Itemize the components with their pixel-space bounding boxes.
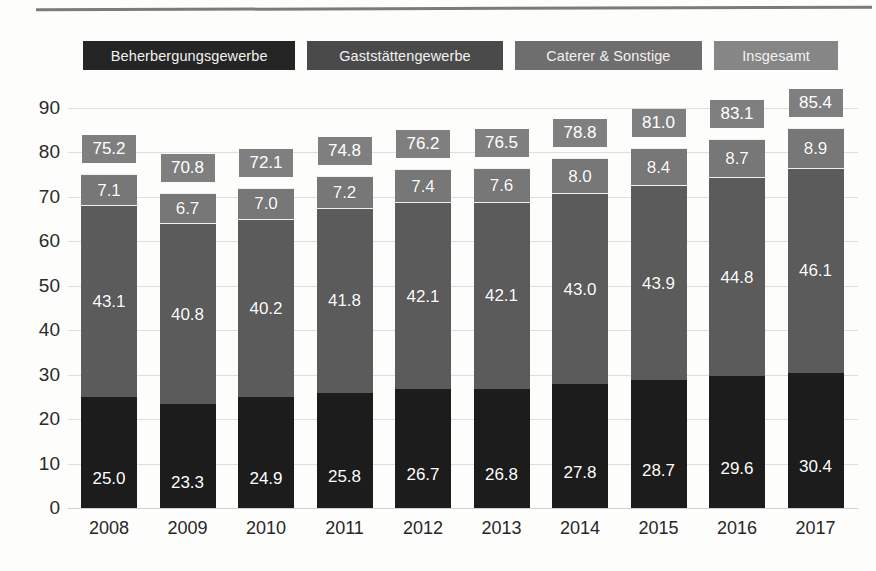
x-axis-tick-label: 2015 xyxy=(631,518,687,539)
bar-segment[interactable]: 29.6 xyxy=(709,376,765,508)
bar-segment[interactable]: 6.7 xyxy=(160,193,216,223)
bar-total-badge: 72.1 xyxy=(239,149,293,177)
bar-segment-value: 7.6 xyxy=(490,177,514,194)
bar-total-badge: 75.2 xyxy=(82,135,136,163)
bar-segment[interactable]: 42.1 xyxy=(395,202,451,389)
bar-segment-value: 27.8 xyxy=(563,464,596,481)
x-axis-tick-label: 2016 xyxy=(709,518,765,539)
bar-segment-value: 25.8 xyxy=(328,468,361,485)
bar-segment-value: 8.0 xyxy=(568,168,592,185)
bar-segment-value: 26.7 xyxy=(406,466,439,483)
x-axis-tick-label: 2008 xyxy=(81,518,137,539)
bar-segment[interactable]: 25.8 xyxy=(317,393,373,508)
bar-total-value: 81.0 xyxy=(642,113,675,133)
bar-total-badge: 85.4 xyxy=(789,89,843,117)
y-axis-tick-label: 60 xyxy=(16,230,60,252)
bar-group[interactable]: 24.940.27.072.1 xyxy=(238,108,294,508)
bar-segment-value: 8.4 xyxy=(647,159,671,176)
x-axis-tick-label: 2013 xyxy=(474,518,530,539)
bar-segment-value: 28.7 xyxy=(642,462,675,479)
bar-segment[interactable]: 26.7 xyxy=(395,389,451,508)
bar-segment[interactable]: 24.9 xyxy=(238,397,294,508)
bar-segment-value: 24.9 xyxy=(249,470,282,487)
bar-segment-value: 29.6 xyxy=(720,460,753,477)
bar-segment[interactable]: 7.1 xyxy=(81,174,137,206)
bar-group[interactable]: 27.843.08.078.8 xyxy=(552,108,608,508)
bar-segment[interactable]: 27.8 xyxy=(552,384,608,508)
bar-segment-value: 40.2 xyxy=(249,300,282,317)
x-axis-tick-label: 2010 xyxy=(238,518,294,539)
x-axis-tick-label: 2014 xyxy=(552,518,608,539)
bar-segment-value: 8.9 xyxy=(804,140,828,157)
bar-segment-value: 46.1 xyxy=(799,262,832,279)
bar-total-value: 76.2 xyxy=(406,134,439,154)
bar-total-value: 72.1 xyxy=(249,153,282,173)
bar-segment[interactable]: 7.2 xyxy=(317,176,373,208)
bar-segment[interactable]: 44.8 xyxy=(709,177,765,376)
bar-segment-value: 41.8 xyxy=(328,292,361,309)
bar-segment[interactable]: 28.7 xyxy=(631,380,687,508)
bar-group[interactable]: 30.446.18.985.4 xyxy=(788,108,844,508)
bar-segment-value: 7.2 xyxy=(333,184,357,201)
bar-total-badge: 83.1 xyxy=(710,100,764,128)
x-axis: 2008200920102011201220132014201520162017 xyxy=(68,518,858,548)
bar-segment[interactable]: 8.7 xyxy=(709,139,765,178)
bar-segment-value: 44.8 xyxy=(720,269,753,286)
bar-total-value: 74.8 xyxy=(328,141,361,161)
bar-segment-value: 42.1 xyxy=(485,287,518,304)
chart-page: BeherbergungsgewerbeGaststättengewerbeCa… xyxy=(0,0,876,571)
bar-segment-value: 7.4 xyxy=(411,178,435,195)
bar-segment[interactable]: 43.1 xyxy=(81,205,137,397)
bar-segment[interactable]: 30.4 xyxy=(788,373,844,508)
y-axis-tick-label: 90 xyxy=(16,97,60,119)
bar-segment[interactable]: 8.0 xyxy=(552,158,608,194)
bar-segment[interactable]: 7.6 xyxy=(474,168,530,202)
bar-series-container: 25.043.17.175.223.340.86.770.824.940.27.… xyxy=(68,108,858,508)
bar-segment[interactable]: 23.3 xyxy=(160,404,216,508)
y-axis: 0102030405060708090 xyxy=(8,108,60,508)
bar-segment-value: 23.3 xyxy=(171,474,204,491)
bar-segment[interactable]: 43.0 xyxy=(552,193,608,384)
bar-segment[interactable]: 7.4 xyxy=(395,169,451,202)
bar-segment-value: 6.7 xyxy=(176,200,200,217)
bar-total-value: 75.2 xyxy=(92,139,125,159)
bar-segment[interactable]: 7.0 xyxy=(238,188,294,219)
bar-segment-value: 42.1 xyxy=(406,288,439,305)
bar-segment-value: 43.1 xyxy=(92,293,125,310)
bar-group[interactable]: 25.043.17.175.2 xyxy=(81,108,137,508)
bar-segment[interactable]: 25.0 xyxy=(81,397,137,508)
y-axis-tick-label: 50 xyxy=(16,275,60,297)
bar-segment-value: 30.4 xyxy=(799,458,832,475)
x-axis-tick-label: 2009 xyxy=(160,518,216,539)
bar-segment-value: 43.0 xyxy=(563,281,596,298)
bar-total-value: 70.8 xyxy=(171,158,204,178)
bar-group[interactable]: 29.644.88.783.1 xyxy=(709,108,765,508)
bar-segment[interactable]: 46.1 xyxy=(788,168,844,373)
bar-segment[interactable]: 43.9 xyxy=(631,185,687,380)
bar-segment[interactable]: 42.1 xyxy=(474,202,530,389)
bar-segment[interactable]: 8.4 xyxy=(631,148,687,185)
bar-group[interactable]: 26.742.17.476.2 xyxy=(395,108,451,508)
bar-segment[interactable]: 40.2 xyxy=(238,219,294,398)
bar-total-value: 76.5 xyxy=(485,133,518,153)
x-axis-tick-label: 2012 xyxy=(395,518,451,539)
bar-group[interactable]: 23.340.86.770.8 xyxy=(160,108,216,508)
bar-segment[interactable]: 40.8 xyxy=(160,223,216,404)
bar-total-badge: 78.8 xyxy=(553,119,607,147)
bar-segment-value: 43.9 xyxy=(642,275,675,292)
bar-segment[interactable]: 8.9 xyxy=(788,128,844,168)
y-axis-tick-label: 40 xyxy=(16,319,60,341)
bar-segment[interactable]: 26.8 xyxy=(474,389,530,508)
y-axis-tick-label: 30 xyxy=(16,364,60,386)
bar-segment-value: 7.0 xyxy=(254,195,278,212)
bar-group[interactable]: 26.842.17.676.5 xyxy=(474,108,530,508)
bar-segment-value: 25.0 xyxy=(92,470,125,487)
bar-group[interactable]: 25.841.87.274.8 xyxy=(317,108,373,508)
bar-segment-value: 7.1 xyxy=(97,182,121,199)
bar-segment-value: 26.8 xyxy=(485,466,518,483)
plot-area: 0102030405060708090 25.043.17.175.223.34… xyxy=(0,0,876,571)
bar-segment[interactable]: 41.8 xyxy=(317,208,373,394)
bar-group[interactable]: 28.743.98.481.0 xyxy=(631,108,687,508)
bar-total-badge: 74.8 xyxy=(318,137,372,165)
bar-total-value: 85.4 xyxy=(799,93,832,113)
